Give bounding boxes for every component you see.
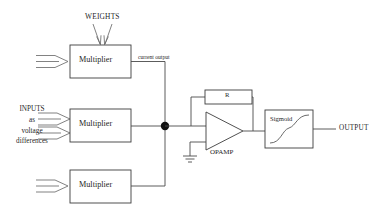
wire-opamp-to-ground (190, 142, 206, 156)
multiplier-2-label: Multiplier (79, 120, 112, 129)
wire-feedback-left (191, 97, 205, 126)
wire-multiplier-1-to-node (131, 62, 165, 127)
wire-multiplier-3-to-node (131, 126, 165, 186)
current-output-label: current output (138, 55, 170, 61)
resistor-r-label: R (225, 92, 229, 99)
sigmoid-label: Sigmoid (270, 116, 292, 123)
inputs-label-line-2: as (4, 115, 60, 126)
input-arrow-4 (36, 180, 68, 192)
multiplier-3-label: Multiplier (79, 181, 112, 190)
diagram-canvas: WEIGHTS INPUTS as voltage differences Mu… (0, 0, 376, 217)
output-label: OUTPUT (339, 125, 369, 133)
inputs-label-line-4: differences (4, 136, 60, 147)
inputs-label-line-1: INPUTS (4, 104, 60, 115)
weight-arrow-left (93, 24, 101, 45)
input-arrow-1 (36, 56, 68, 68)
multiplier-1-label: Multiplier (79, 56, 112, 65)
opamp-triangle[interactable] (206, 112, 243, 150)
inputs-label: INPUTS as voltage differences (4, 104, 60, 147)
weight-arrow-right (104, 24, 112, 45)
opamp-label: OPAMP (210, 149, 233, 156)
weights-label: WEIGHTS (85, 13, 120, 21)
ground-symbol (183, 156, 197, 162)
inputs-label-line-3: voltage (4, 126, 60, 137)
